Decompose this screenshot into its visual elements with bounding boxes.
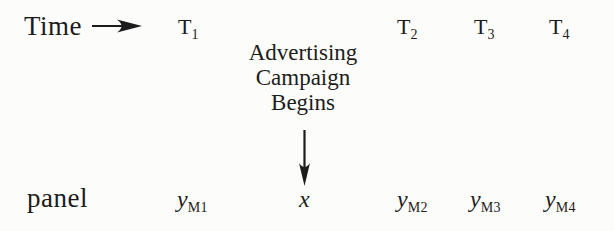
- campaign-annotation-line3: Begins: [228, 90, 378, 115]
- panel-measurement-ym4-sub: M4: [556, 200, 576, 215]
- panel-measurement-ym2-base: y: [397, 186, 408, 212]
- panel-measurement-ym3: yM3: [470, 186, 501, 213]
- time-point-t3-base: T: [474, 14, 487, 39]
- time-point-t4-base: T: [549, 14, 562, 39]
- advertising-campaign-timeline-diagram: Time T1 T2 T3 T4 Advertising Campaign Be…: [0, 0, 614, 231]
- time-point-t2-base: T: [397, 14, 410, 39]
- time-point-t3: T3: [474, 14, 495, 40]
- time-point-t1: T1: [178, 14, 199, 40]
- time-point-t2: T2: [397, 14, 418, 40]
- panel-measurement-ym2: yM2: [397, 186, 428, 213]
- time-point-t2-sub: 2: [410, 27, 418, 42]
- time-axis-label: Time: [24, 11, 82, 42]
- panel-measurement-ym1: yM1: [177, 186, 208, 213]
- panel-measurement-ym1-base: y: [177, 186, 188, 212]
- panel-measurement-ym3-base: y: [470, 186, 481, 212]
- panel-measurement-ym4-base: y: [545, 186, 556, 212]
- campaign-annotation-line2: Campaign: [228, 65, 378, 90]
- panel-measurement-ym4: yM4: [545, 186, 576, 213]
- panel-row-label: panel: [27, 183, 88, 214]
- campaign-annotation-line1: Advertising: [228, 40, 378, 65]
- down-arrow-icon: [298, 130, 311, 186]
- panel-measurement-ym1-sub: M1: [188, 200, 208, 215]
- time-point-t1-base: T: [178, 14, 191, 39]
- panel-measurement-ym2-sub: M2: [408, 200, 428, 215]
- time-point-t4: T4: [549, 14, 570, 40]
- right-arrow-icon: [92, 19, 142, 33]
- time-point-t1-sub: 1: [191, 27, 199, 42]
- panel-measurement-ym3-sub: M3: [481, 200, 501, 215]
- campaign-annotation: Advertising Campaign Begins: [228, 40, 378, 115]
- campaign-start-variable-x: x: [299, 186, 310, 213]
- time-point-t4-sub: 4: [562, 27, 570, 42]
- time-point-t3-sub: 3: [487, 27, 495, 42]
